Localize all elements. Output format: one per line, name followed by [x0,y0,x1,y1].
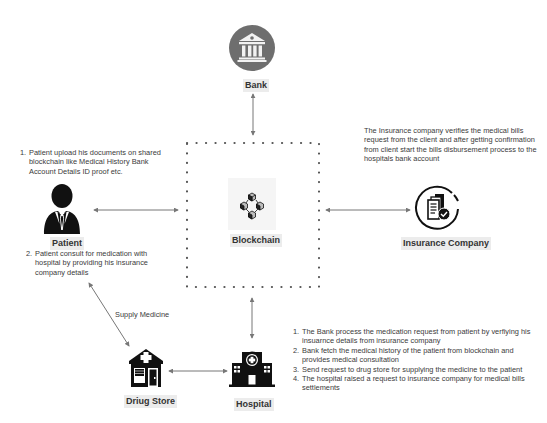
pharmacy-icon [128,348,164,388]
drug-store-node[interactable] [128,348,164,388]
blockchain-node[interactable] [238,192,266,220]
note-number: 1. [20,148,26,157]
person-icon [42,182,82,234]
note-number: 3. [293,365,299,374]
note-number: 1. [293,327,299,336]
note-item: 3.Send request to drug store for supplyi… [293,365,543,374]
note-text: The Bank process the medication request … [302,327,530,345]
note-item: 1.The Bank process the medication reques… [293,327,543,346]
bank-node[interactable] [228,24,276,72]
supply-medicine-label: Supply Medicine [115,310,169,319]
note-text: The hospital raised a request to insuran… [302,374,525,392]
note-text: Bank fetch the medical history of the pa… [302,346,514,364]
note-number: 2. [26,249,32,258]
note-text: Patient upload his documents on shared b… [29,148,161,176]
note-text: Send request to drug store for supplying… [302,365,522,374]
insurance-label: Insurance Company [401,237,491,250]
hospital-note: 1.The Bank process the medication reques… [293,327,543,393]
blockchain-icon [238,192,266,220]
note-item: 2.Bank fetch the medical history of the … [293,346,543,365]
patient-node[interactable] [42,182,82,234]
bank-label: Bank [243,79,269,92]
patient-consult-note: 2.Patient consult for medication with ho… [26,249,156,277]
bank-icon [228,24,276,72]
insurance-note: The Insurance company verifies the medic… [364,126,542,164]
note-number: 2. [293,346,299,355]
note-item: 1.Patient upload his documents on shared… [20,148,170,176]
blockchain-label: Blockchain [230,234,282,247]
patient-upload-note: 1.Patient upload his documents on shared… [20,148,170,176]
hospital-node[interactable] [229,349,275,387]
hospital-label: Hospital [234,398,274,411]
hospital-icon [229,349,275,387]
note-text: Patient consult for medication with hosp… [35,249,148,277]
insurance-document-icon [414,183,462,231]
note-number: 4. [293,374,299,383]
drug-store-label: Driug Store [124,395,177,408]
note-item: 4.The hospital raised a request to insur… [293,374,543,393]
insurance-node[interactable] [414,183,462,231]
note-item: 2.Patient consult for medication with ho… [26,249,156,277]
